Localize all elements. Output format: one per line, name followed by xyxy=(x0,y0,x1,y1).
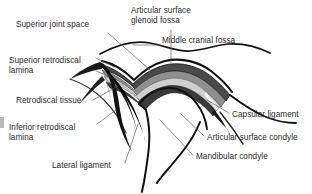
tmj-anatomy-figure: Superior joint space Articular surface g… xyxy=(0,0,312,194)
label-superior-retrodiscal-lamina: Superior retrodiscal lamina xyxy=(9,56,81,76)
leader-articular-surface-condyle xyxy=(181,114,204,136)
leader-inferior-retrodiscal-lamina xyxy=(97,110,116,124)
label-superior-joint-space: Superior joint space xyxy=(16,20,89,30)
leader-mandibular-condyle xyxy=(160,120,193,155)
label-articular-surface-condyle: Articular surface condyle xyxy=(207,133,298,143)
page-edge-mark xyxy=(0,117,4,128)
label-inferior-retrodiscal-lamina: Inferior retrodiscal lamina xyxy=(9,123,75,143)
label-mandibular-condyle: Mandibular condyle xyxy=(196,152,268,162)
leader-lateral-ligament xyxy=(125,124,138,163)
label-middle-cranial-fossa: Middle cranial fossa xyxy=(162,36,235,46)
label-articular-surface-glenoid-fossa: Articular surface glenoid fossa xyxy=(131,6,191,26)
label-capsular-ligament: Capsular ligament xyxy=(232,110,299,120)
label-lateral-ligament: Lateral ligament xyxy=(52,161,111,171)
label-retrodiscal-tissue: Retrodiscal tissue xyxy=(16,96,81,106)
